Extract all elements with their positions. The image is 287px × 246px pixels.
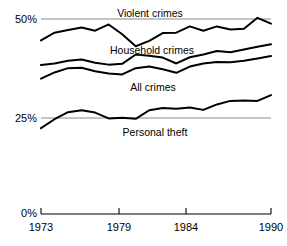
x-axis-label-1990: 1990 — [246, 222, 287, 233]
series-label-violent-crimes: Violent crimes — [100, 8, 200, 19]
series-label-all-crimes: All crimes — [108, 82, 198, 93]
x-axis-label-1984: 1984 — [161, 222, 211, 233]
x-axis-label-1979: 1979 — [94, 222, 144, 233]
x-axis-label-1973: 1973 — [16, 222, 66, 233]
series-line-personal-theft — [41, 95, 271, 128]
y-axis-label-25pct: 25% — [4, 113, 37, 124]
y-axis-label-50pct: 50% — [4, 14, 37, 25]
chart-plot-area — [0, 0, 287, 246]
crime-reporting-rate-chart: 50% 25% 0% 1973 1979 1984 1990 Violent c… — [0, 0, 287, 246]
series-label-household-crimes: Household crimes — [97, 45, 207, 56]
series-line-violent-crimes — [41, 18, 271, 46]
y-axis-label-0pct: 0% — [4, 208, 37, 219]
series-label-personal-theft: Personal theft — [105, 127, 205, 138]
